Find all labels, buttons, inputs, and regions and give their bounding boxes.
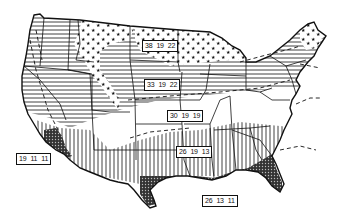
us-climate-zone-map: ★ ★	[0, 0, 343, 224]
zone-label-value: 19	[193, 112, 200, 120]
zone-label-value: 13	[216, 197, 223, 205]
zone-label-value: 22	[170, 81, 177, 89]
zone-label-value: 13	[202, 148, 209, 156]
zone-label-value: 11	[228, 197, 235, 205]
zone-label-value: 11	[41, 155, 48, 163]
zone-label-value: 33	[147, 81, 154, 89]
zone-label-value: 26	[205, 197, 212, 205]
zone-label-value: 11	[30, 155, 37, 163]
zone-label-value: 26	[179, 148, 186, 156]
zone-label-value: 19	[181, 112, 188, 120]
zone-label-value: 19	[156, 42, 163, 50]
zone-label-value: 22	[168, 42, 175, 50]
zone-label-central: 30 19 19	[167, 110, 203, 122]
zone-label-gulf: 26 13 11	[202, 195, 238, 207]
zone-label-value: 19	[158, 81, 165, 89]
zone-label-value: 19	[19, 155, 26, 163]
zone-label-value: 38	[145, 42, 152, 50]
zone-label-value: 19	[190, 148, 197, 156]
zone-label-south-central: 26 19 13	[176, 146, 212, 158]
zone-label-north: 38 19 22	[142, 40, 178, 52]
zone-label-southwest-coast: 19 11 11	[16, 153, 51, 165]
zone-label-value: 30	[170, 112, 177, 120]
zone-label-north-central: 33 19 22	[144, 79, 180, 91]
